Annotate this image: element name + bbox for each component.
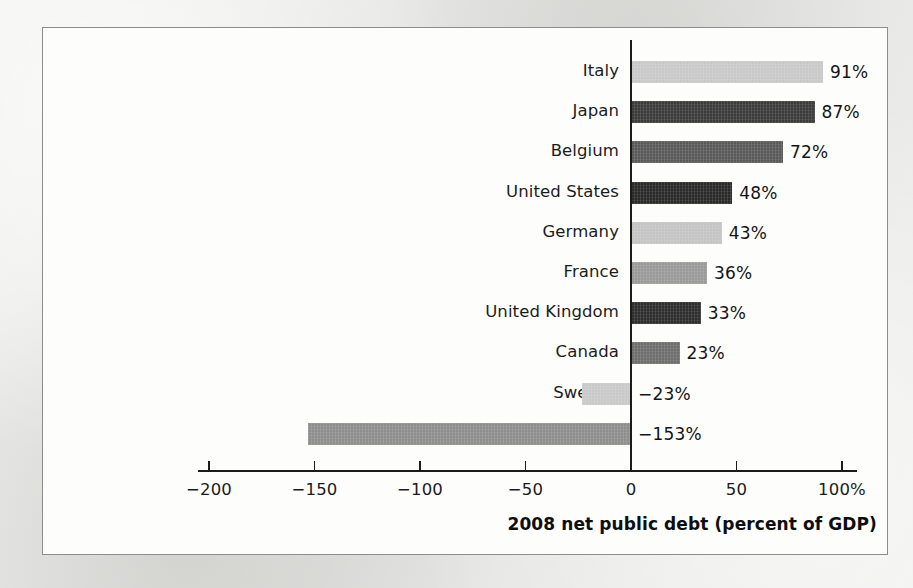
x-tick-label-50: 50 [697, 480, 777, 499]
bar-halftone-texture [631, 61, 823, 83]
x-tick--100 [419, 461, 421, 470]
x-tick-0 [630, 461, 632, 470]
x-tick-label-100: 100% [802, 480, 882, 499]
bar-halftone-texture [631, 222, 722, 244]
y-axis-label-united-kingdom: United Kingdom [485, 302, 619, 321]
chart-panel: ItalyJapanBelgiumUnited StatesGermanyFra… [42, 27, 888, 555]
bar-halftone-texture [631, 262, 707, 284]
value-label-france: 36% [714, 263, 752, 283]
bar-norway [308, 423, 631, 445]
bar-halftone-texture [582, 383, 631, 405]
bar-germany [631, 222, 722, 244]
y-axis-label-united-states: United States [506, 182, 619, 201]
x-tick--200 [208, 461, 210, 470]
bar-halftone-texture [631, 141, 783, 163]
x-tick-label--50: −50 [486, 480, 566, 499]
y-axis-label-germany: Germany [542, 222, 619, 241]
bar-united-kingdom [631, 302, 701, 324]
y-axis-label-italy: Italy [583, 61, 619, 80]
x-tick-50 [736, 461, 738, 470]
bar-sweden [582, 383, 631, 405]
plot-area: ItalyJapanBelgiumUnited StatesGermanyFra… [43, 28, 889, 556]
x-axis-line [198, 470, 856, 472]
bar-france [631, 262, 707, 284]
value-label-sweden: −23% [638, 384, 691, 404]
x-tick--150 [314, 461, 316, 470]
x-tick-label--100: −100 [380, 480, 460, 499]
value-label-united-kingdom: 33% [708, 303, 746, 323]
bar-canada [631, 342, 680, 364]
bar-halftone-texture [631, 302, 701, 324]
x-tick-label--200: −200 [169, 480, 249, 499]
x-tick-100 [841, 461, 843, 470]
bar-halftone-texture [308, 423, 631, 445]
value-label-norway: −153% [638, 424, 702, 444]
y-axis-label-canada: Canada [556, 342, 619, 361]
bar-halftone-texture [631, 342, 680, 364]
y-axis-label-belgium: Belgium [551, 141, 619, 160]
value-label-canada: 23% [687, 343, 725, 363]
bar-belgium [631, 141, 783, 163]
zero-axis-line [630, 40, 632, 470]
value-label-italy: 91% [830, 62, 868, 82]
y-axis-label-japan: Japan [572, 101, 619, 120]
value-label-united-states: 48% [739, 183, 777, 203]
x-tick-label--150: −150 [275, 480, 355, 499]
bar-united-states [631, 182, 732, 204]
bar-halftone-texture [631, 101, 815, 123]
bar-halftone-texture [631, 182, 732, 204]
bar-italy [631, 61, 823, 83]
value-label-belgium: 72% [790, 142, 828, 162]
value-label-japan: 87% [822, 102, 860, 122]
value-label-germany: 43% [729, 223, 767, 243]
x-tick-label-0: 0 [591, 480, 671, 499]
bar-japan [631, 101, 815, 123]
x-axis-title: 2008 net public debt (percent of GDP) [507, 514, 877, 534]
x-tick--50 [525, 461, 527, 470]
y-axis-label-france: France [564, 262, 619, 281]
